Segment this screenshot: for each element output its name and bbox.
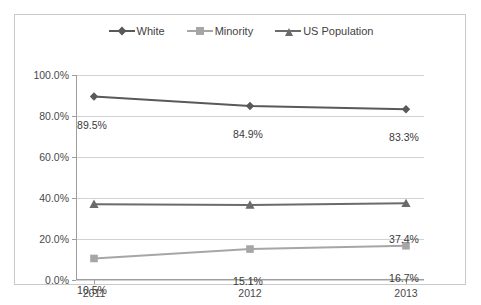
data-label: 84.9% (233, 128, 263, 140)
data-point-marker (90, 92, 98, 100)
data-label: 10.5% (77, 284, 107, 296)
data-point-marker (90, 255, 98, 263)
data-label: 15.1% (233, 275, 263, 287)
y-tick-label: 40.0% (39, 192, 69, 204)
legend-item-white[interactable]: White (109, 25, 165, 37)
legend-label-us-population: US Population (303, 25, 373, 37)
triangle-icon (285, 28, 293, 36)
data-label: 89.5% (77, 119, 107, 131)
data-label: 83.3% (389, 131, 419, 143)
legend-item-us-population[interactable]: US Population (275, 25, 373, 37)
legend-marker-triangle-icon (275, 26, 301, 37)
y-tick-label: 100.0% (33, 69, 69, 81)
data-label: 16.7% (389, 272, 419, 284)
data-point-marker (246, 102, 254, 110)
x-tick-mark (94, 280, 95, 284)
y-tick-mark (72, 280, 76, 281)
legend-label-minority: Minority (215, 25, 254, 37)
y-tick-label: 80.0% (39, 110, 69, 122)
data-point-marker (402, 105, 410, 113)
legend-item-minority[interactable]: Minority (187, 25, 254, 37)
square-icon (196, 27, 204, 35)
series-lines (76, 75, 424, 280)
y-tick-label: 0.0% (45, 274, 69, 286)
series-white (90, 92, 410, 113)
y-tick-label: 20.0% (39, 233, 69, 245)
legend-marker-diamond-icon (109, 26, 135, 37)
x-tick-label: 2013 (394, 287, 417, 299)
legend-label-white: White (137, 25, 165, 37)
chart-legend: White Minority US Population (15, 25, 467, 37)
chart-frame: White Minority US Population 0.0%20.0%40… (14, 14, 466, 285)
y-tick-label: 60.0% (39, 151, 69, 163)
plot-area: 0.0%20.0%40.0%60.0%80.0%100.0% 201120122… (76, 75, 424, 280)
legend-marker-square-icon (187, 26, 213, 37)
series-minority (90, 242, 410, 262)
diamond-icon (117, 27, 126, 36)
data-point-marker (246, 245, 254, 253)
data-label: 37.4% (389, 233, 419, 245)
x-tick-label: 2012 (238, 287, 261, 299)
series-us-population (89, 199, 410, 209)
